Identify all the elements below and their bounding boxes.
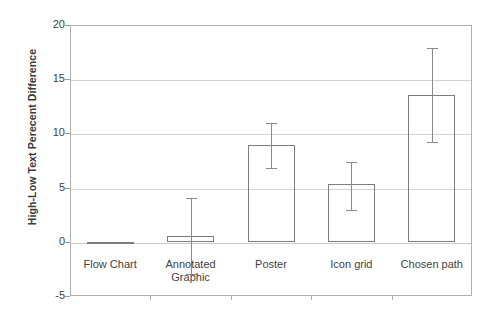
bar-chart: High-Low Text Perecent Difference 201510… bbox=[0, 0, 495, 319]
y-tick-label: 5 bbox=[25, 182, 65, 193]
error-bar-cap-upper bbox=[266, 123, 277, 124]
x-tick-mark bbox=[150, 296, 151, 300]
bar bbox=[87, 242, 134, 244]
y-tick-label: 10 bbox=[25, 127, 65, 138]
x-tick-label-line: Flow Chart bbox=[84, 258, 137, 270]
error-bar-cap-upper bbox=[186, 198, 197, 199]
bars-layer bbox=[70, 25, 472, 296]
error-bar-stem bbox=[432, 48, 433, 142]
x-tick-label: AnnotatedGraphic bbox=[150, 258, 230, 284]
x-axis-labels: Flow ChartAnnotatedGraphicPosterIcon gri… bbox=[70, 258, 472, 296]
x-tick-label-line: Icon grid bbox=[330, 258, 372, 270]
y-tick-label: -5 bbox=[25, 290, 65, 301]
error-bar-cap-lower bbox=[427, 142, 438, 143]
x-tick-label: Icon grid bbox=[311, 258, 391, 271]
y-tick-label: 20 bbox=[25, 19, 65, 30]
x-tick-label-line: Graphic bbox=[150, 271, 230, 284]
x-tick-mark bbox=[231, 296, 232, 300]
x-tick-mark bbox=[311, 296, 312, 300]
error-bar-cap-upper bbox=[427, 48, 438, 49]
x-tick-label: Chosen path bbox=[392, 258, 472, 271]
x-tick-label-line: Annotated bbox=[166, 258, 216, 270]
error-bar-cap-lower bbox=[266, 168, 277, 169]
error-bar-stem bbox=[351, 162, 352, 211]
x-tick-label: Flow Chart bbox=[70, 258, 150, 271]
error-bar-cap-upper bbox=[346, 162, 357, 163]
x-tick-mark bbox=[392, 296, 393, 300]
error-bar-stem bbox=[271, 123, 272, 169]
x-tick-label-line: Chosen path bbox=[401, 258, 463, 270]
y-tick-label: 15 bbox=[25, 73, 65, 84]
x-tick-label-line: Poster bbox=[255, 258, 287, 270]
error-bar-cap-lower bbox=[346, 210, 357, 211]
x-tick-label: Poster bbox=[231, 258, 311, 271]
y-tick-label: 0 bbox=[25, 236, 65, 247]
y-tick-mark bbox=[65, 296, 70, 297]
